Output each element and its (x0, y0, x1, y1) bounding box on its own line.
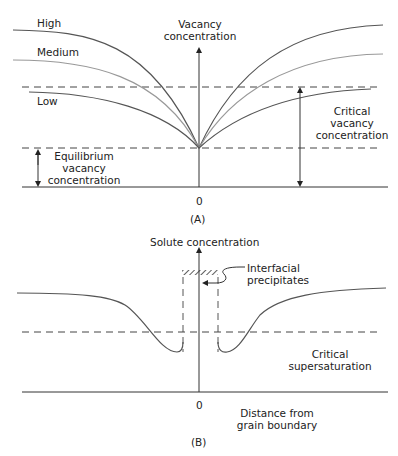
diagram-canvas (0, 0, 398, 456)
equilibrium-vacancy-label: Equilibrium vacancy concentration (44, 150, 124, 186)
y-axis-label-a-line1: Vacancy (160, 18, 240, 30)
solute-curve-right (218, 288, 386, 352)
x-axis-label-line1: Distance from (222, 407, 332, 419)
precipitate-label-line1: Interfacial (247, 262, 309, 274)
x-axis-label-b: Distance from grain boundary (222, 407, 332, 431)
supersaturation-label-line2: supersaturation (275, 360, 385, 372)
equilibrium-label-line3: concentration (44, 174, 124, 186)
precipitate-label: Interfacial precipitates (247, 262, 309, 286)
origin-label-a: 0 (196, 195, 203, 207)
critical-label-line2: vacancy (310, 117, 394, 129)
critical-label-line1: Critical (310, 105, 394, 117)
critical-vacancy-label: Critical vacancy concentration (310, 105, 394, 141)
caption-a: (A) (190, 213, 205, 225)
precipitate-bar (182, 270, 218, 275)
equilibrium-label-line2: vacancy (44, 162, 124, 174)
precipitate-leader-line (216, 267, 245, 283)
caption-b: (B) (191, 436, 206, 448)
y-axis-label-b: Solute concentration (150, 236, 259, 248)
y-axis-label-a-line2: concentration (160, 30, 240, 42)
critical-supersaturation-label: Critical supersaturation (275, 348, 385, 372)
curve-label-low: Low (37, 95, 58, 107)
equilibrium-label-line1: Equilibrium (44, 150, 124, 162)
origin-label-b: 0 (196, 399, 203, 411)
supersaturation-label-line1: Critical (275, 348, 385, 360)
critical-label-line3: concentration (310, 129, 394, 141)
precipitate-label-line2: precipitates (247, 274, 309, 286)
solute-curve-left (17, 293, 183, 352)
y-axis-label-a: Vacancy concentration (160, 18, 240, 42)
curve-label-medium: Medium (37, 46, 79, 58)
x-axis-label-line2: grain boundary (222, 419, 332, 431)
curve-label-high: High (37, 17, 61, 29)
